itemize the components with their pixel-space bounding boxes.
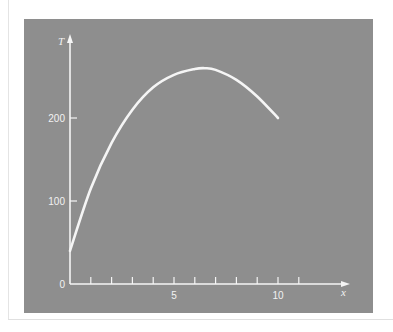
axes (67, 34, 350, 287)
y-axis-label: T (58, 35, 65, 47)
y-axis-arrow-icon (67, 34, 73, 43)
x-tick-label: 10 (272, 290, 284, 301)
y-tick-label: 200 (48, 113, 65, 124)
data-curve (70, 68, 278, 251)
y-tick-label: 0 (59, 279, 65, 290)
y-tick-label: 100 (48, 196, 65, 207)
ticks: 5100100200 (48, 113, 298, 301)
chart-svg: 5100100200 T x (0, 0, 393, 332)
x-tick-label: 5 (171, 290, 177, 301)
x-axis-label: x (340, 286, 346, 298)
